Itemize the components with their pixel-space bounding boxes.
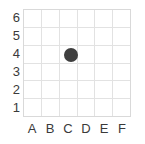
data-point-c4[interactable] [64,48,78,62]
y-tick-label-0: 6 [0,9,20,27]
y-tick-label-1: 5 [0,27,20,45]
grid-chart: 6 5 4 3 2 1 A B C D [0,0,145,144]
x-tick-label-2: C [59,120,77,138]
x-tick-label-0: A [23,120,41,138]
x-tick-label-4: E [95,120,113,138]
x-tick-label-3: D [77,120,95,138]
y-tick-label-3: 3 [0,63,20,81]
y-tick-label-4: 2 [0,81,20,99]
x-tick-label-5: F [113,120,131,138]
y-tick-label-5: 1 [0,99,20,117]
y-tick-label-2: 4 [0,45,20,63]
plot-area [23,9,131,117]
x-tick-label-1: B [41,120,59,138]
data-points-layer [24,10,130,116]
